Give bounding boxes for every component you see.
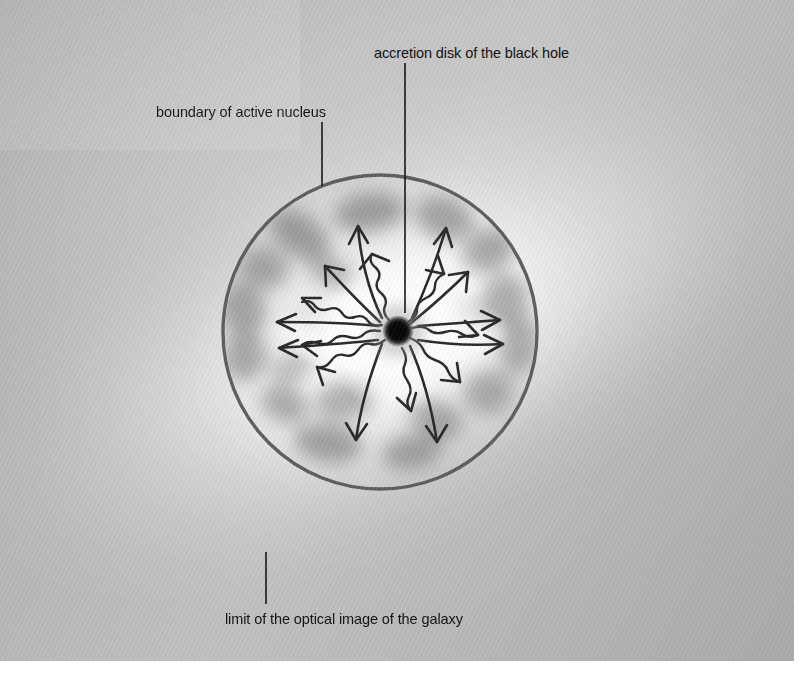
gas-cloud-blob: [255, 379, 314, 430]
diagram-artwork: [0, 0, 794, 661]
photographic-plate: accretion disk of the black hole boundar…: [0, 0, 794, 661]
label-accretion-disk: accretion disk of the black hole: [374, 45, 569, 61]
label-nucleus-boundary: boundary of active nucleus: [156, 104, 326, 120]
gas-cloud-blob: [332, 188, 409, 236]
figure-root: accretion disk of the black hole boundar…: [0, 0, 801, 683]
label-optical-limit: limit of the optical image of the galaxy: [225, 611, 463, 627]
gas-cloud-blob: [292, 419, 365, 466]
black-hole-icon: [383, 316, 414, 347]
gas-cloud-blob: [458, 364, 518, 419]
